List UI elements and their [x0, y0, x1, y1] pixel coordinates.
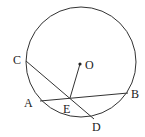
label-b: B — [131, 87, 139, 101]
label-c: C — [13, 53, 21, 67]
label-a: A — [24, 96, 33, 110]
label-o: O — [85, 58, 94, 72]
chord-ab — [40, 93, 128, 101]
chord-cd — [26, 61, 94, 119]
center-point-o — [78, 62, 81, 65]
segment-oe — [70, 64, 80, 98]
label-e: E — [63, 102, 70, 116]
geometry-diagram: C A E D B O — [0, 0, 145, 137]
label-d: D — [92, 120, 101, 134]
